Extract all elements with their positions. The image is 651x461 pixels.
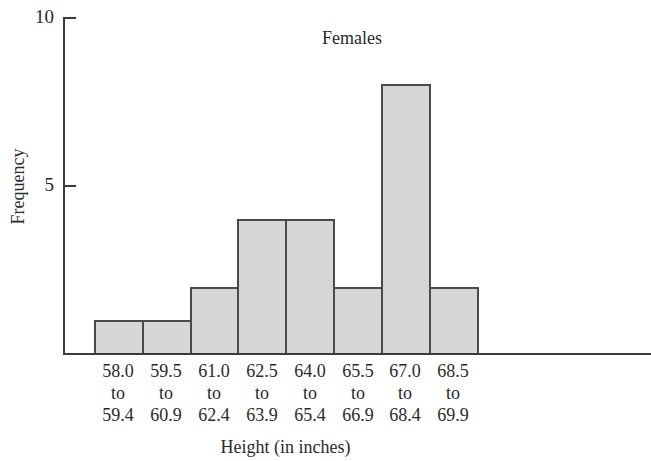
category-low: 68.5 (429, 360, 477, 382)
histogram-bar (381, 84, 431, 354)
chart-title: Females (322, 28, 382, 49)
y-tick-10 (64, 17, 76, 19)
category-low: 65.5 (334, 360, 382, 382)
histogram-bar (190, 287, 240, 354)
x-category-label: 58.0 to 59.4 (94, 360, 142, 426)
category-to: to (190, 382, 238, 404)
y-tick-label-10: 10 (14, 6, 54, 28)
x-category-label: 61.0 to 62.4 (190, 360, 238, 426)
category-to: to (94, 382, 142, 404)
x-category-label: 67.0 to 68.4 (381, 360, 429, 426)
category-high: 62.4 (190, 404, 238, 426)
histogram-chart: Females Frequency 10 5 58.0 to 59.4 59.5… (0, 0, 651, 461)
x-category-label: 64.0 to 65.4 (286, 360, 334, 426)
histogram-bar (142, 320, 192, 354)
category-high: 69.9 (429, 404, 477, 426)
category-low: 59.5 (142, 360, 190, 382)
category-high: 60.9 (142, 404, 190, 426)
category-high: 65.4 (286, 404, 334, 426)
y-tick-5 (64, 185, 76, 187)
category-low: 67.0 (381, 360, 429, 382)
x-category-label: 62.5 to 63.9 (238, 360, 286, 426)
category-low: 62.5 (238, 360, 286, 382)
histogram-bar (429, 287, 479, 354)
x-category-label: 68.5 to 69.9 (429, 360, 477, 426)
category-to: to (142, 382, 190, 404)
x-axis-line (63, 353, 651, 355)
category-high: 63.9 (238, 404, 286, 426)
category-to: to (286, 382, 334, 404)
x-axis-label: Height (in inches) (0, 437, 571, 458)
category-high: 66.9 (334, 404, 382, 426)
category-high: 68.4 (381, 404, 429, 426)
x-category-label: 59.5 to 60.9 (142, 360, 190, 426)
category-to: to (334, 382, 382, 404)
category-low: 64.0 (286, 360, 334, 382)
category-low: 61.0 (190, 360, 238, 382)
category-to: to (429, 382, 477, 404)
category-to: to (238, 382, 286, 404)
histogram-bar (333, 287, 383, 354)
histogram-bar (237, 219, 287, 354)
category-to: to (381, 382, 429, 404)
category-low: 58.0 (94, 360, 142, 382)
histogram-bar (94, 320, 144, 354)
category-high: 59.4 (94, 404, 142, 426)
histogram-bar (285, 219, 335, 354)
x-category-label: 65.5 to 66.9 (334, 360, 382, 426)
y-tick-label-5: 5 (14, 174, 54, 196)
